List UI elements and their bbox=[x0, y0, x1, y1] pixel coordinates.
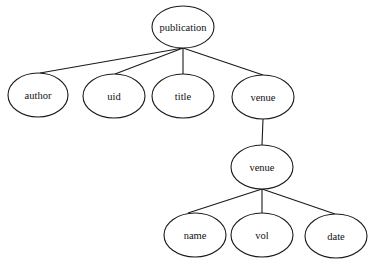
edges bbox=[40, 48, 335, 214]
nodes: publication author uid title venue venue… bbox=[8, 6, 367, 258]
node-label: author bbox=[25, 90, 52, 101]
node-label: publication bbox=[159, 22, 207, 33]
node-uid: uid bbox=[83, 74, 145, 118]
edge-venue-name bbox=[188, 189, 262, 213]
node-label: vol bbox=[255, 230, 269, 241]
node-label: venue bbox=[250, 92, 275, 103]
edge-venue-date bbox=[262, 189, 335, 214]
edge-publication-venue bbox=[183, 48, 263, 75]
node-publication: publication bbox=[152, 6, 214, 48]
node-label: venue bbox=[249, 162, 274, 173]
node-label: date bbox=[327, 231, 345, 242]
node-venue-parent: venue bbox=[232, 75, 294, 119]
node-name: name bbox=[164, 213, 226, 257]
node-label: uid bbox=[107, 91, 121, 102]
edge-venue-venue bbox=[262, 119, 263, 145]
node-date: date bbox=[305, 214, 367, 258]
edge-publication-author bbox=[40, 48, 183, 73]
tree-diagram: publication author uid title venue venue… bbox=[0, 0, 372, 265]
node-author: author bbox=[8, 73, 68, 117]
node-label: title bbox=[175, 91, 192, 102]
node-label: name bbox=[184, 230, 207, 241]
node-title: title bbox=[152, 74, 214, 118]
node-venue-child: venue bbox=[231, 145, 293, 189]
edge-publication-uid bbox=[115, 48, 183, 74]
node-vol: vol bbox=[231, 213, 293, 257]
